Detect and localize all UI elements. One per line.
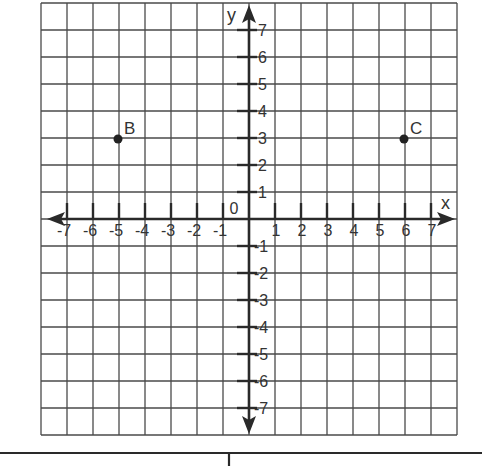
x-tick-label: -4 <box>135 222 149 239</box>
y-tick-label: 6 <box>258 49 267 66</box>
y-tick-label: -7 <box>254 400 268 417</box>
origin-label: 0 <box>230 200 239 217</box>
y-tick-label: -3 <box>254 292 268 309</box>
y-tick-label: 5 <box>258 76 267 93</box>
y-tick-label: -1 <box>254 238 268 255</box>
y-tick-label: -5 <box>254 346 268 363</box>
y-tick-label: 7 <box>258 22 267 39</box>
x-tick-label: -7 <box>57 222 71 239</box>
tick-labels: -7-6-5-4-3-2-11234567-7-6-5-4-3-2-112345… <box>57 5 450 417</box>
y-tick-label: 4 <box>258 103 267 120</box>
point-label-b: B <box>124 119 135 138</box>
x-tick-label: 5 <box>376 222 385 239</box>
y-tick-label: 2 <box>258 157 267 174</box>
y-axis-label: y <box>227 5 236 25</box>
x-tick-label: 3 <box>324 222 333 239</box>
point-label-c: C <box>410 119 422 138</box>
point-b <box>114 135 123 144</box>
y-tick-label: 1 <box>258 184 267 201</box>
x-tick-label: -6 <box>83 222 97 239</box>
point-c <box>400 135 409 144</box>
x-tick-label: 1 <box>272 222 281 239</box>
y-tick-label: -6 <box>254 373 268 390</box>
x-tick-label: -5 <box>109 222 123 239</box>
y-tick-label: -4 <box>254 319 268 336</box>
x-tick-label: -3 <box>161 222 175 239</box>
coordinate-plane: -7-6-5-4-3-2-11234567-7-6-5-4-3-2-112345… <box>0 0 482 466</box>
x-tick-label: -1 <box>213 222 227 239</box>
answer-table-divider <box>0 453 482 466</box>
x-tick-label: 4 <box>350 222 359 239</box>
x-axis-label: x <box>441 193 450 213</box>
y-tick-label: 3 <box>258 130 267 147</box>
x-tick-label: -2 <box>187 222 201 239</box>
x-tick-label: 7 <box>428 222 437 239</box>
y-tick-label: -2 <box>254 265 268 282</box>
x-tick-label: 2 <box>298 222 307 239</box>
plotted-points: BC <box>114 119 423 144</box>
axes <box>47 5 455 434</box>
x-tick-label: 6 <box>402 222 411 239</box>
